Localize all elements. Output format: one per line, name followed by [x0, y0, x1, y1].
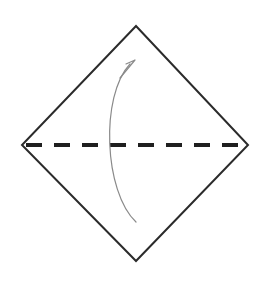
origami-fold-diagram	[0, 0, 269, 281]
fold-diagram-container	[0, 0, 269, 281]
